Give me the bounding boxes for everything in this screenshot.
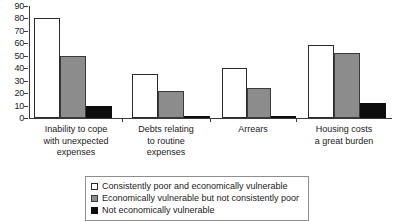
bar-chart-figure: 0102030405060708090 Inability to copewit…	[0, 0, 394, 221]
bar-g3-s0	[308, 45, 334, 118]
group-divider-1	[122, 118, 123, 122]
y-tick-label-30: 30	[0, 76, 24, 85]
bar-groups	[30, 6, 392, 118]
x-category-label-line: with unexpected	[31, 136, 121, 148]
bar-group-0	[30, 6, 122, 118]
bar-g2-s1	[247, 88, 272, 118]
y-tick-label-40: 40	[0, 64, 24, 73]
bar-g2-s0	[222, 68, 247, 118]
bar-g3-s1	[334, 53, 360, 118]
x-category-label-line: Inability to cope	[31, 124, 121, 136]
bar-g1-s0	[132, 74, 158, 118]
y-tick-mark-80	[24, 18, 28, 19]
bar-group-1	[122, 6, 210, 118]
y-tick-mark-20	[24, 93, 28, 94]
x-category-label-1: Debts relatingto routineexpenses	[122, 124, 210, 164]
legend-item-0: Consistently poor and economically vulne…	[91, 180, 303, 192]
bar-g1-s2	[184, 116, 210, 118]
x-category-label-line: a great burden	[297, 136, 391, 148]
y-tick-label-80: 80	[0, 14, 24, 23]
y-tick-mark-10	[24, 106, 28, 107]
y-tick-label-50: 50	[0, 51, 24, 60]
y-axis-tick-labels: 0102030405060708090	[0, 6, 24, 118]
x-category-label-line: Arrears	[211, 124, 295, 136]
x-category-label-0: Inability to copewith unexpectedexpenses	[30, 124, 122, 164]
legend-swatch-icon-0	[91, 183, 98, 190]
y-tick-label-60: 60	[0, 39, 24, 48]
y-tick-mark-0	[24, 118, 28, 119]
group-divider-3	[296, 118, 297, 122]
bar-g1-s1	[158, 91, 184, 118]
legend-swatch-icon-2	[91, 207, 98, 214]
bar-g3-s2	[360, 103, 386, 118]
bar-g2-s2	[271, 116, 296, 118]
y-tick-mark-70	[24, 31, 28, 32]
bar-group-3	[296, 6, 392, 118]
x-category-label-line: Debts relating	[123, 124, 209, 136]
x-category-label-line: to routine	[123, 136, 209, 148]
x-category-label-line: expenses	[31, 147, 121, 159]
legend-item-2: Not economically vulnerable	[91, 204, 303, 216]
y-tick-label-0: 0	[0, 114, 24, 123]
y-tick-label-20: 20	[0, 89, 24, 98]
x-category-label-line: expenses	[123, 147, 209, 159]
legend-item-1: Economically vulnerable but not consiste…	[91, 192, 303, 204]
bar-g0-s0	[34, 18, 60, 118]
chart-legend: Consistently poor and economically vulne…	[85, 176, 309, 221]
bar-g0-s1	[60, 56, 86, 118]
group-divider-2	[210, 118, 211, 122]
y-tick-label-90: 90	[0, 2, 24, 11]
x-category-label-line: Housing costs	[297, 124, 391, 136]
plot-area: 0102030405060708090	[0, 6, 394, 130]
x-category-label-2: Arrears	[210, 124, 296, 164]
legend-label-2: Not economically vulnerable	[102, 205, 215, 215]
x-axis-category-labels: Inability to copewith unexpectedexpenses…	[30, 124, 392, 164]
x-category-label-3: Housing costsa great burden	[296, 124, 392, 164]
bar-g0-s2	[86, 106, 112, 118]
y-tick-label-10: 10	[0, 101, 24, 110]
y-tick-mark-60	[24, 43, 28, 44]
y-tick-mark-30	[24, 81, 28, 82]
y-tick-mark-40	[24, 68, 28, 69]
legend-label-1: Economically vulnerable but not consiste…	[102, 193, 299, 203]
legend-label-0: Consistently poor and economically vulne…	[102, 181, 288, 191]
legend-swatch-icon-1	[91, 195, 98, 202]
y-tick-mark-50	[24, 56, 28, 57]
bar-group-2	[210, 6, 296, 118]
y-tick-mark-90	[24, 6, 28, 7]
y-tick-label-70: 70	[0, 26, 24, 35]
